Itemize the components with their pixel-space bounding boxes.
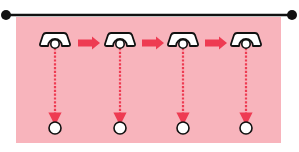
- target-circle: [114, 122, 126, 134]
- trolley-icon: [40, 33, 70, 48]
- target-circle: [49, 122, 61, 134]
- trolley-icon: [105, 33, 135, 48]
- track-end-dot-left: [1, 10, 11, 20]
- target-circle: [177, 122, 189, 134]
- trolley-wheel: [116, 40, 124, 48]
- trolley-wheel: [242, 40, 250, 48]
- target-circle: [240, 122, 252, 134]
- trolley-icon: [231, 33, 261, 48]
- trolley-icon: [168, 33, 198, 48]
- trolley-wheel: [179, 40, 187, 48]
- track-end-dot-right: [287, 10, 297, 20]
- trolley-wheel: [51, 40, 59, 48]
- trolley-diagram: [0, 0, 299, 152]
